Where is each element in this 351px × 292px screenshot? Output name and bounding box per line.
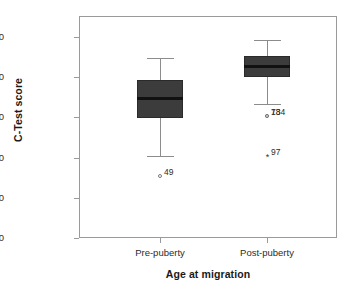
whisker-upper [267,40,268,56]
outlier-marker-extreme: * [264,155,271,160]
x-axis-title: Age at migration [79,268,337,280]
outlier-label: 78 [271,107,280,117]
whisker-cap-lower [254,104,281,105]
box-plot-post-puberty: 13478*97 [0,0,351,292]
outlier-label: 97 [271,147,280,157]
box-plot-chart: C-Test score 100.0080.0060.0040.0020.000… [0,0,351,292]
whisker-cap-upper [254,40,281,41]
whisker-lower [267,77,268,104]
median-line [244,65,290,68]
outlier-marker [265,114,269,118]
